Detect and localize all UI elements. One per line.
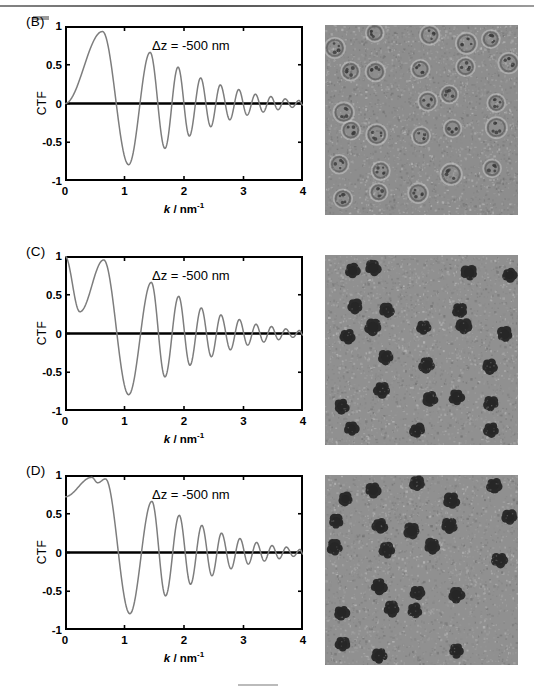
y-tick-label: 0.5 <box>28 508 62 520</box>
x-tick-label: 3 <box>232 185 256 197</box>
defocus-annotation-c: Δz = -500 nm <box>152 268 230 283</box>
y-tick-label: -0.5 <box>28 585 62 597</box>
x-axis-title-b: k / nm-1 <box>65 201 303 215</box>
figure-panel-d: (D) CTF 10.50-0.5-1 01234 Δz = -500 nm k… <box>0 460 534 691</box>
x-tick-label: 1 <box>113 185 137 197</box>
ctf-plot-c: CTF 10.50-0.5-1 01234 Δz = -500 nm k / n… <box>0 230 318 461</box>
figure-panel-b: (B) CTF 10.50-0.5-1 01234 Δz = -500 nm k… <box>0 0 534 231</box>
ctf-plot-b: CTF 10.50-0.5-1 01234 Δz = -500 nm k / n… <box>0 0 318 231</box>
micrograph-b <box>325 25 518 215</box>
micrograph-c <box>325 255 518 445</box>
y-tick-label: 0 <box>28 547 62 559</box>
x-tick-label: 3 <box>232 415 256 427</box>
y-tick-label: 0.5 <box>28 289 62 301</box>
ctf-plot-d: CTF 10.50-0.5-1 01234 Δz = -500 nm k / n… <box>0 460 318 691</box>
defocus-annotation-b: Δz = -500 nm <box>152 38 230 53</box>
y-tick-label: 0 <box>28 328 62 340</box>
x-tick-label: 2 <box>172 185 196 197</box>
defocus-annotation-d: Δz = -500 nm <box>152 487 230 502</box>
y-tick-label: 1 <box>28 250 62 262</box>
micrograph-d <box>325 475 518 665</box>
x-tick-label: 4 <box>291 185 315 197</box>
y-tick-label: 1 <box>28 20 62 32</box>
x-tick-label: 1 <box>113 634 137 646</box>
x-tick-label: 4 <box>291 634 315 646</box>
y-tick-label: 0.5 <box>28 59 62 71</box>
y-tick-label: 0 <box>28 98 62 110</box>
y-tick-label: -0.5 <box>28 366 62 378</box>
x-tick-label: 2 <box>172 634 196 646</box>
x-tick-label: 0 <box>53 634 77 646</box>
x-axis-title-c: k / nm-1 <box>65 431 303 445</box>
y-tick-label: -0.5 <box>28 136 62 148</box>
figure-panel-c: (C) CTF 10.50-0.5-1 01234 Δz = -500 nm k… <box>0 230 534 461</box>
y-tick-label: 1 <box>28 469 62 481</box>
x-axis-title-d: k / nm-1 <box>65 650 303 664</box>
x-tick-label: 4 <box>291 415 315 427</box>
x-tick-label: 2 <box>172 415 196 427</box>
x-tick-label: 3 <box>232 634 256 646</box>
x-tick-label: 0 <box>53 415 77 427</box>
x-tick-label: 0 <box>53 185 77 197</box>
x-tick-label: 1 <box>113 415 137 427</box>
